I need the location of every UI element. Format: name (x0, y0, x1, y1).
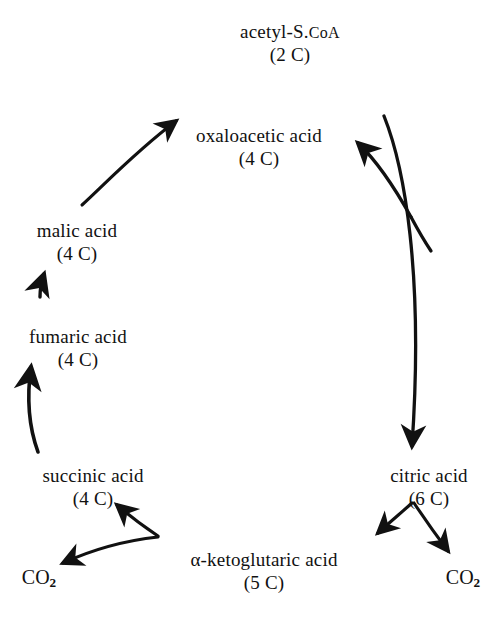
node-acetyl-coa-label: acetyl-S.CoA (240, 20, 340, 43)
arrow-malic-to-oxaloacetic (82, 121, 176, 205)
arrow-fumaric-to-malic (40, 274, 44, 297)
byproduct-co2-left-formula: CO (22, 566, 50, 588)
node-alpha-ketoglutaric-acid-label: α-ketoglutaric acid (190, 548, 337, 571)
node-malic-acid: malic acid (4 C) (37, 219, 118, 265)
node-succinic-acid: succinic acid (4 C) (42, 464, 143, 510)
arrow-layer (0, 0, 504, 617)
node-fumaric-acid-count: (4 C) (29, 348, 127, 371)
node-oxaloacetic-acid-label: oxaloacetic acid (196, 124, 322, 147)
byproduct-co2-left-subscript: 2 (50, 575, 57, 590)
node-succinic-acid-count: (4 C) (42, 487, 143, 510)
node-succinic-acid-label: succinic acid (42, 464, 143, 487)
byproduct-co2-right: CO2 (446, 566, 480, 591)
arrow-oxaloacetic-to-citric (384, 116, 416, 446)
node-acetyl-coa-count: (2 C) (240, 43, 340, 66)
arrow-ketoglutaric-to-co2 (63, 537, 158, 563)
byproduct-co2-right-formula: CO (446, 566, 474, 588)
node-fumaric-acid: fumaric acid (4 C) (29, 325, 127, 371)
node-malic-acid-label: malic acid (37, 219, 118, 242)
byproduct-co2-left: CO2 (22, 566, 56, 591)
node-alpha-ketoglutaric-acid-count: (5 C) (190, 571, 337, 594)
node-oxaloacetic-acid-count: (4 C) (196, 147, 322, 170)
node-fumaric-acid-label: fumaric acid (29, 325, 127, 348)
node-alpha-ketoglutaric-acid: α-ketoglutaric acid (5 C) (190, 548, 337, 594)
node-citric-acid-label: citric acid (390, 464, 468, 487)
node-oxaloacetic-acid: oxaloacetic acid (4 C) (196, 124, 322, 170)
node-citric-acid: citric acid (6 C) (390, 464, 468, 510)
citric-acid-cycle-diagram: acetyl-S.CoA (2 C) oxaloacetic acid (4 C… (0, 0, 504, 617)
node-acetyl-coa: acetyl-S.CoA (2 C) (240, 20, 340, 66)
node-citric-acid-count: (6 C) (390, 487, 468, 510)
byproduct-co2-right-subscript: 2 (474, 575, 481, 590)
line-acetyl-coa-tail (411, 217, 431, 251)
node-malic-acid-count: (4 C) (37, 242, 118, 265)
node-acetyl-coa-smallcaps: CoA (309, 24, 340, 41)
arrow-succinic-to-fumaric (29, 367, 38, 452)
